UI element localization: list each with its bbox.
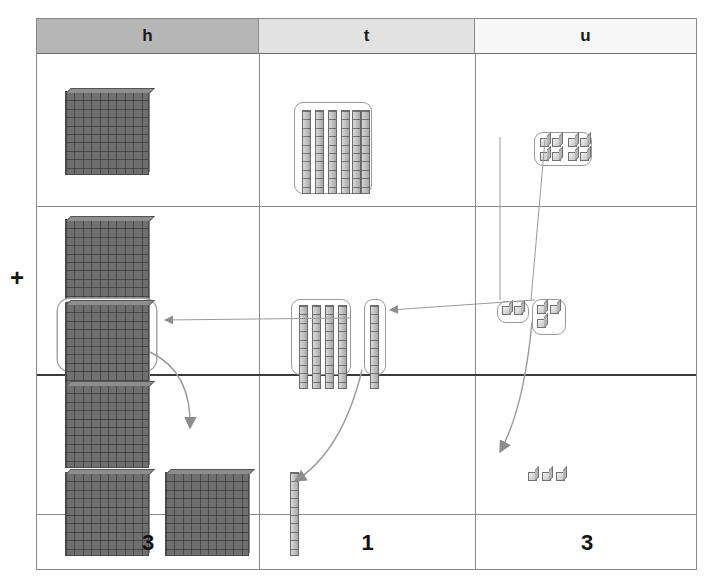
ten-rod bbox=[341, 110, 350, 194]
column-header-units: u bbox=[475, 19, 696, 54]
unit-cube bbox=[540, 138, 549, 147]
unit-cube bbox=[568, 138, 577, 147]
cell-addend2-tens bbox=[260, 207, 475, 374]
ten-rod bbox=[302, 110, 311, 194]
ten-rod bbox=[328, 110, 337, 194]
unit-cube bbox=[580, 138, 589, 147]
unit-cube bbox=[514, 306, 523, 315]
cell-addend2-hundreds bbox=[37, 207, 259, 374]
column-header-tens: t bbox=[259, 19, 475, 54]
unit-cube bbox=[552, 138, 561, 147]
row-addend-1 bbox=[37, 54, 696, 206]
place-value-table: h t u bbox=[36, 18, 697, 570]
ten-rod bbox=[315, 110, 324, 194]
table-header-row: h t u bbox=[37, 19, 696, 54]
cell-addend1-hundreds bbox=[37, 54, 259, 206]
answer-cell-tens: 1 bbox=[260, 515, 475, 570]
row-addend-2 bbox=[37, 207, 696, 374]
ten-rod bbox=[361, 110, 370, 194]
row-answer: 3 1 3 bbox=[37, 515, 696, 570]
answer-digit-units: 3 bbox=[476, 515, 698, 570]
answer-cell-hundreds: 3 bbox=[37, 515, 259, 570]
cell-sum-units bbox=[476, 376, 698, 514]
hundred-flat bbox=[65, 384, 149, 468]
hundred-flat bbox=[65, 219, 149, 303]
cell-sum-tens bbox=[260, 376, 475, 514]
cell-addend2-units bbox=[476, 207, 698, 374]
unit-cube bbox=[568, 152, 577, 161]
unit-cube bbox=[537, 305, 546, 314]
unit-cube bbox=[542, 472, 551, 481]
unit-cube bbox=[528, 472, 537, 481]
answer-digit-tens: 1 bbox=[260, 515, 475, 570]
answer-cell-units: 3 bbox=[476, 515, 698, 570]
cell-addend1-tens bbox=[260, 54, 475, 206]
row-sum bbox=[37, 376, 696, 514]
unit-cube bbox=[550, 305, 559, 314]
unit-cube bbox=[537, 319, 546, 328]
unit-cube bbox=[502, 306, 511, 315]
unit-cube bbox=[580, 152, 589, 161]
unit-cube bbox=[540, 152, 549, 161]
unit-cube bbox=[552, 152, 561, 161]
column-header-hundreds: h bbox=[37, 19, 259, 54]
answer-digit-hundreds: 3 bbox=[37, 515, 259, 570]
unit-cube bbox=[556, 472, 565, 481]
cell-sum-hundreds bbox=[37, 376, 259, 514]
hundred-flat bbox=[65, 91, 149, 175]
diagram-canvas: + h t u bbox=[0, 0, 723, 588]
ten-rod bbox=[352, 110, 361, 194]
plus-operator: + bbox=[10, 266, 24, 290]
hundred-flat-regrouped bbox=[65, 303, 149, 387]
cell-addend1-units bbox=[476, 54, 698, 206]
